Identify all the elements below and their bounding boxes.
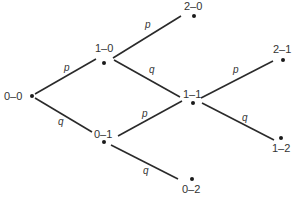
node-dot-1-1 <box>191 101 195 105</box>
probability-tree-diagram: pqpqpqpq 0–01–00–12–01–10–22–11–2 <box>0 0 293 198</box>
edge-label-1-0-to-2-0: p <box>144 19 151 30</box>
edge-label-0-0-to-0-1: q <box>58 116 64 127</box>
node-label-0-0: 0–0 <box>4 90 22 102</box>
edges <box>35 16 274 179</box>
edge-labels: pqpqpqpq <box>58 19 248 176</box>
node-label-1-1: 1–1 <box>183 88 201 100</box>
node-label-2-1: 2–1 <box>273 43 291 55</box>
edge-1-1-to-1-2 <box>202 103 274 140</box>
node-label-1-2: 1–2 <box>272 142 290 154</box>
edge-1-0-to-1-1 <box>114 60 180 97</box>
node-label-0-2: 0–2 <box>182 183 200 195</box>
node-dot-0-2 <box>190 177 194 181</box>
edge-label-0-1-to-0-2: q <box>143 165 149 176</box>
edge-label-1-1-to-1-2: q <box>242 112 248 123</box>
node-dot-2-1 <box>281 58 285 62</box>
nodes <box>30 14 285 181</box>
edge-label-1-1-to-2-1: p <box>232 64 239 75</box>
node-dot-1-0 <box>102 61 106 65</box>
node-dot-2-0 <box>192 14 196 18</box>
node-label-0-1: 0–1 <box>94 128 112 140</box>
node-dot-0-0 <box>30 94 34 98</box>
node-label-2-0: 2–0 <box>184 0 202 12</box>
edge-0-1-to-1-1 <box>118 101 182 136</box>
node-dot-0-1 <box>102 140 106 144</box>
node-dot-1-2 <box>279 136 283 140</box>
edge-label-0-0-to-1-0: p <box>63 62 70 73</box>
node-label-1-0: 1–0 <box>95 42 113 54</box>
edge-label-0-1-to-1-1: p <box>141 108 148 119</box>
edge-label-1-0-to-1-1: q <box>149 64 155 75</box>
